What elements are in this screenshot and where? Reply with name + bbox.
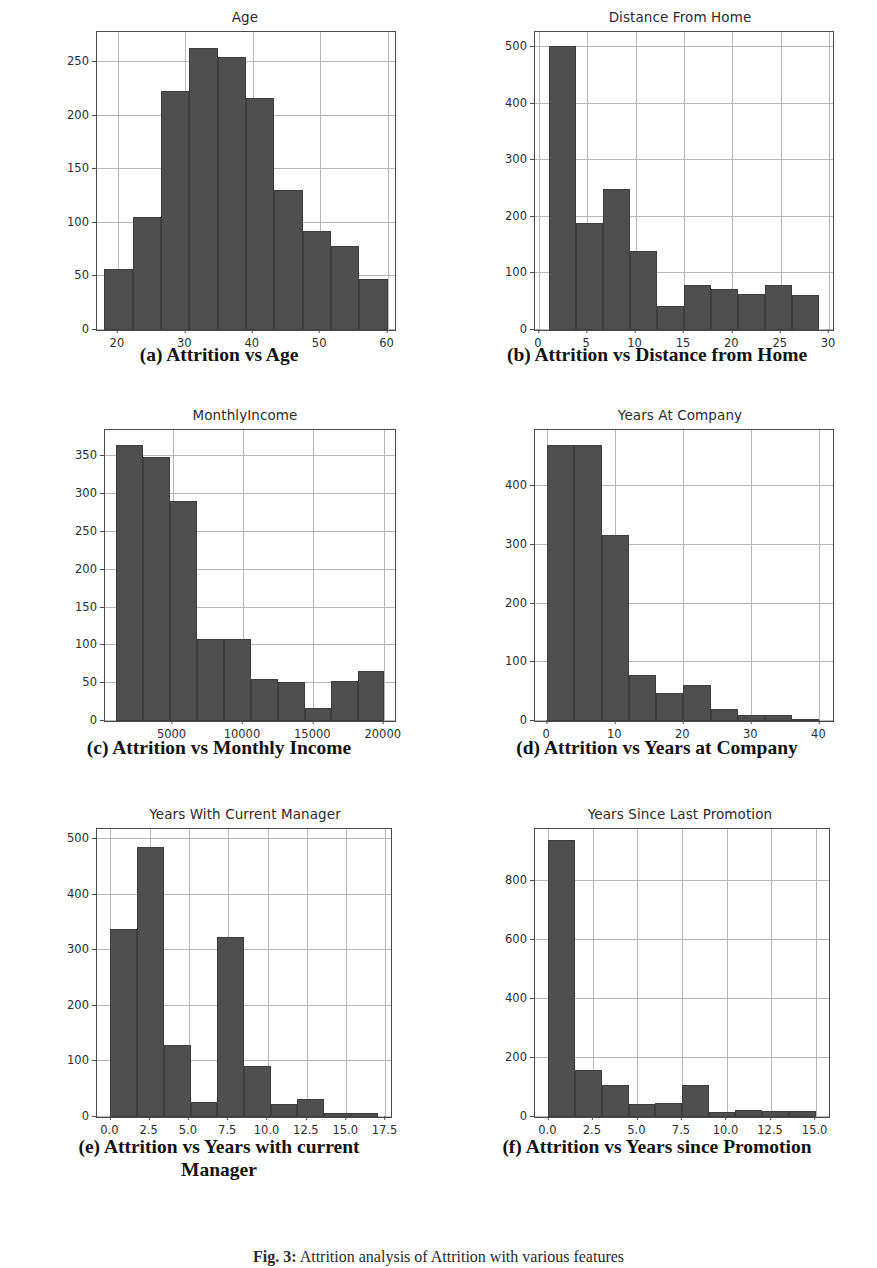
histogram-bar xyxy=(682,1085,709,1117)
x-axis-tick-label: 0.0 xyxy=(538,1116,556,1137)
y-axis-tick-label: 250 xyxy=(75,524,104,538)
y-axis-tick-label: 0 xyxy=(82,1109,96,1123)
chart-title-e: Years With Current Manager xyxy=(78,805,412,824)
histogram-bar xyxy=(143,457,170,721)
histogram-bar xyxy=(629,1104,656,1117)
x-axis-tick-label: 5000 xyxy=(157,720,186,741)
chart-a: Age 0501001502002502030405060 xyxy=(26,0,412,332)
x-axis-tick-label: 12.5 xyxy=(757,1116,783,1137)
x-axis-tick-label: 5.0 xyxy=(627,1116,645,1137)
panel-e: Years With Current Manager 0100200300400… xyxy=(0,793,438,1233)
x-axis-tick-label: 10 xyxy=(607,720,622,741)
x-axis-tick-label: 50 xyxy=(312,329,327,350)
gridline-vertical xyxy=(637,829,638,1117)
gridline-vertical xyxy=(771,829,772,1117)
x-axis-tick-label: 40 xyxy=(811,720,826,741)
histogram-bar xyxy=(191,1102,218,1117)
subcaption-a: (a) Attrition vs Age xyxy=(0,344,438,367)
histogram-bar xyxy=(602,535,629,721)
gridline-vertical xyxy=(829,32,830,330)
x-axis-tick-label: 15.0 xyxy=(802,1116,828,1137)
y-axis-tick-label: 400 xyxy=(505,96,534,110)
gridline-vertical xyxy=(388,32,389,330)
gridline-vertical xyxy=(385,829,386,1117)
gridline-vertical xyxy=(683,430,684,721)
gridline-vertical xyxy=(732,32,733,330)
y-axis-tick-label: 0 xyxy=(520,1109,534,1123)
histogram-bar xyxy=(711,709,738,721)
panel-d: Years At Company 0100200300400010203040 … xyxy=(438,400,876,793)
y-axis-tick-label: 0 xyxy=(82,322,96,336)
histogram-bar xyxy=(765,715,792,721)
x-axis-tick-label: 12.5 xyxy=(293,1116,319,1137)
panel-f: Years Since Last Promotion 0200400600800… xyxy=(438,793,876,1233)
gridline-vertical xyxy=(313,430,314,721)
plot-area-e xyxy=(96,828,392,1118)
histogram-bar xyxy=(547,445,574,721)
y-axis-tick-label: 200 xyxy=(75,562,104,576)
x-axis-tick-label: 17.5 xyxy=(372,1116,398,1137)
histogram-bar xyxy=(251,679,278,721)
histogram-bar xyxy=(244,1066,271,1117)
y-axis-tick-label: 250 xyxy=(67,54,96,68)
x-axis-tick-label: 20000 xyxy=(364,720,401,741)
y-axis-tick-label: 0 xyxy=(90,713,104,727)
gridline-vertical xyxy=(819,430,820,721)
y-axis-tick-label: 0 xyxy=(520,713,534,727)
gridline-vertical xyxy=(751,430,752,721)
histogram-bar xyxy=(684,285,711,330)
histogram-bar xyxy=(331,246,359,330)
y-axis-tick-label: 300 xyxy=(505,537,534,551)
y-axis-tick-label: 150 xyxy=(67,161,96,175)
histogram-bar xyxy=(574,445,601,721)
histogram-bar xyxy=(630,251,657,330)
x-axis-tick-label: 10 xyxy=(627,329,642,350)
histogram-bar xyxy=(278,682,305,721)
histogram-bar xyxy=(303,231,331,330)
plot-outer-f: 02004006008000.02.55.07.510.012.515.0 xyxy=(508,824,852,1124)
y-axis-tick-label: 400 xyxy=(67,887,96,901)
x-axis-tick-label: 10000 xyxy=(224,720,261,741)
y-axis-tick-label: 200 xyxy=(505,596,534,610)
y-axis-tick-label: 300 xyxy=(505,152,534,166)
histogram-bar xyxy=(110,929,137,1117)
x-axis-tick-label: 30 xyxy=(743,720,758,741)
histogram-bar xyxy=(656,693,683,721)
histogram-bar xyxy=(738,294,765,330)
plot-outer-a: 0501001502002502030405060 xyxy=(78,27,412,332)
plot-outer-d: 0100200300400010203040 xyxy=(508,425,852,725)
histogram-bar xyxy=(331,681,358,721)
x-axis-tick-label: 40 xyxy=(244,329,259,350)
x-axis-tick-label: 25 xyxy=(772,329,787,350)
histogram-bar xyxy=(224,639,251,721)
x-axis-tick-label: 2.5 xyxy=(140,1116,158,1137)
histogram-bar xyxy=(655,1103,682,1117)
histogram-bar xyxy=(164,1045,191,1117)
y-axis-tick-label: 350 xyxy=(75,448,104,462)
x-axis-tick-label: 0.0 xyxy=(100,1116,118,1137)
y-axis-tick-label: 100 xyxy=(75,637,104,651)
y-axis-tick-label: 600 xyxy=(505,932,534,946)
figure-caption: Fig. 3: Attrition analysis of Attrition … xyxy=(0,1248,877,1266)
plot-outer-e: 01002003004005000.02.55.07.510.012.515.0… xyxy=(78,824,412,1124)
histogram-bar xyxy=(217,937,244,1117)
histogram-bar xyxy=(549,46,576,330)
histogram-bar xyxy=(161,91,189,330)
x-axis-tick-label: 2.5 xyxy=(583,1116,601,1137)
chart-b: Distance From Home 010020030040050005101… xyxy=(462,0,852,332)
subcaption-b: (b) Attrition vs Distance from Home xyxy=(438,344,876,367)
y-axis-tick-label: 300 xyxy=(75,486,104,500)
x-axis-tick-label: 7.5 xyxy=(218,1116,236,1137)
histogram-bar xyxy=(602,1085,629,1117)
chart-d: Years At Company 0100200300400010203040 xyxy=(462,400,852,725)
histogram-bar xyxy=(711,289,738,330)
histogram-bar xyxy=(104,269,132,330)
gridline-horizontal xyxy=(97,61,395,62)
histogram-bar xyxy=(274,190,302,330)
plot-area-d xyxy=(534,429,834,722)
x-axis-tick-label: 60 xyxy=(379,329,394,350)
y-axis-tick-label: 800 xyxy=(505,873,534,887)
x-axis-tick-label: 20 xyxy=(724,329,739,350)
plot-outer-b: 0100200300400500051015202530 xyxy=(508,27,852,332)
gridline-vertical xyxy=(307,829,308,1117)
